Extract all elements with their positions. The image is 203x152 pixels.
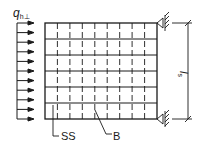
load-arrows xyxy=(17,21,34,121)
distributed-load xyxy=(17,21,34,121)
callout-b: B xyxy=(95,110,120,142)
callout-ss: SS xyxy=(53,105,76,142)
support-bottom xyxy=(157,110,169,127)
horizontal-beams xyxy=(45,39,157,103)
support-top xyxy=(157,12,169,31)
diagram-canvas: qh⊥ xyxy=(0,0,203,152)
svg-text:SS: SS xyxy=(61,130,76,142)
load-label: qh⊥ xyxy=(13,6,30,20)
svg-text:B: B xyxy=(113,130,120,142)
